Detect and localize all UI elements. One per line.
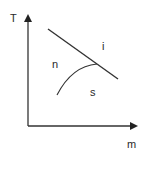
y-axis-label: T (10, 12, 17, 24)
region-label-s: s (90, 86, 96, 98)
phase-diagram: T m i n s (0, 0, 148, 169)
phase-boundary-line (48, 29, 118, 79)
x-axis-label: m (127, 138, 136, 150)
region-label-i: i (102, 40, 104, 52)
region-label-n: n (52, 58, 58, 70)
